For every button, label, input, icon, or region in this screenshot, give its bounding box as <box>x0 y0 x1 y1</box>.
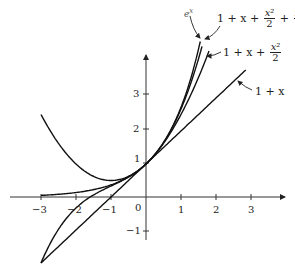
curve-linear <box>41 70 246 263</box>
x-tick-label-neg1: −1 <box>102 205 117 215</box>
y-tick-label-neg1: −1 <box>126 226 141 236</box>
taylor-diagram <box>0 0 295 268</box>
curve-cubic <box>41 46 202 263</box>
x-tick-label-3: 3 <box>248 205 254 215</box>
ex-arrow <box>190 16 200 38</box>
ex-label: ex <box>184 8 193 19</box>
x-tick-label-neg3: −3 <box>32 205 47 215</box>
y-tick-label-3: 3 <box>133 89 139 99</box>
curves <box>41 42 246 264</box>
curve-quad <box>41 51 209 180</box>
x-tick-label-1: 1 <box>178 205 184 215</box>
linear-arrow <box>238 81 252 90</box>
y-tick-label-2: 2 <box>133 124 139 134</box>
linear-label: 1 + x <box>255 86 284 97</box>
quad-label: 1 + x + x²2 <box>223 42 282 63</box>
x-tick-label-2: 2 <box>213 205 219 215</box>
cubic-label: 1 + x + x²2 + x³6 <box>217 8 295 29</box>
y-tick-label-1: 1 <box>134 154 140 164</box>
x-tick-label-0: 0 <box>135 203 141 213</box>
x-tick-label-neg2: −2 <box>67 205 82 215</box>
axes <box>10 55 285 240</box>
